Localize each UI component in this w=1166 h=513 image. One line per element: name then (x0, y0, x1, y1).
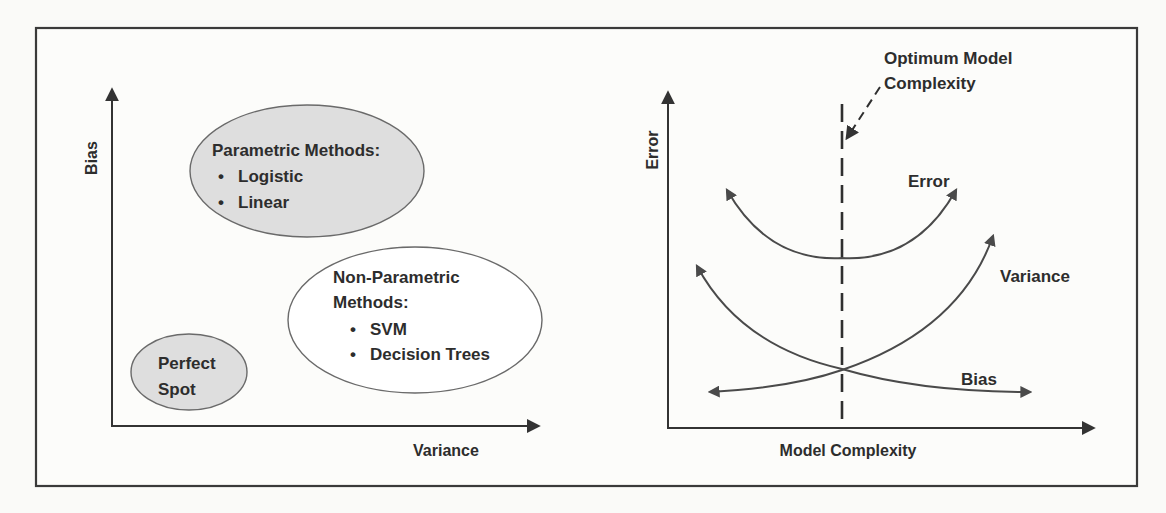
non-parametric-title-line1: Non-Parametric (333, 268, 460, 287)
parametric-methods-region: Parametric Methods: • Logistic • Linear (190, 105, 424, 237)
error-curve-label: Error (908, 172, 950, 191)
non-parametric-item-svm: SVM (370, 320, 407, 339)
bullet-icon: • (350, 345, 356, 364)
bias-variance-figure: Bias Variance Parametric Methods: • Logi… (0, 0, 1166, 513)
right-y-axis-label: Error (644, 130, 661, 169)
bullet-icon: • (218, 167, 224, 186)
figure-frame (36, 28, 1137, 486)
non-parametric-item-decision-trees: Decision Trees (370, 345, 490, 364)
right-x-axis-label: Model Complexity (780, 442, 917, 459)
parametric-title: Parametric Methods: (212, 141, 380, 160)
bullet-icon: • (218, 193, 224, 212)
parametric-item-linear: Linear (238, 193, 289, 212)
left-x-axis-label: Variance (413, 442, 479, 459)
perfect-spot-line1: Perfect (158, 354, 216, 373)
bias-curve-label: Bias (961, 370, 997, 389)
parametric-item-logistic: Logistic (238, 167, 303, 186)
variance-curve-label: Variance (1000, 267, 1070, 286)
parametric-ellipse (190, 105, 424, 237)
left-y-axis-label: Bias (83, 141, 100, 175)
optimum-annotation-line2: Complexity (884, 74, 976, 93)
perfect-spot-line2: Spot (158, 380, 196, 399)
non-parametric-methods-region: Non-Parametric Methods: • SVM • Decision… (288, 247, 542, 393)
optimum-annotation-line1: Optimum Model (884, 49, 1012, 68)
bullet-icon: • (350, 320, 356, 339)
non-parametric-title-line2: Methods: (333, 293, 409, 312)
perfect-spot-region: Perfect Spot (131, 334, 247, 410)
